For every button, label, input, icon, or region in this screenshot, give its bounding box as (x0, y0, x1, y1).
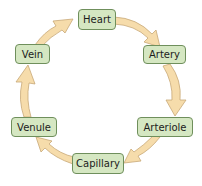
arrow-artery-to-arteriole (163, 64, 186, 116)
arrow-arteriole-to-capillary (124, 136, 160, 163)
node-heart: Heart (78, 9, 116, 30)
node-vein: Vein (15, 44, 50, 64)
node-arteriole: Arteriole (137, 117, 193, 137)
node-venule: Venule (11, 117, 57, 137)
arrow-vein-to-heart (35, 19, 73, 46)
arrow-heart-to-artery (114, 17, 160, 47)
arrow-venule-to-vein (16, 65, 35, 117)
arrow-capillary-to-venule (36, 137, 74, 164)
node-artery: Artery (143, 45, 186, 64)
node-capillary: Capillary (72, 153, 124, 174)
